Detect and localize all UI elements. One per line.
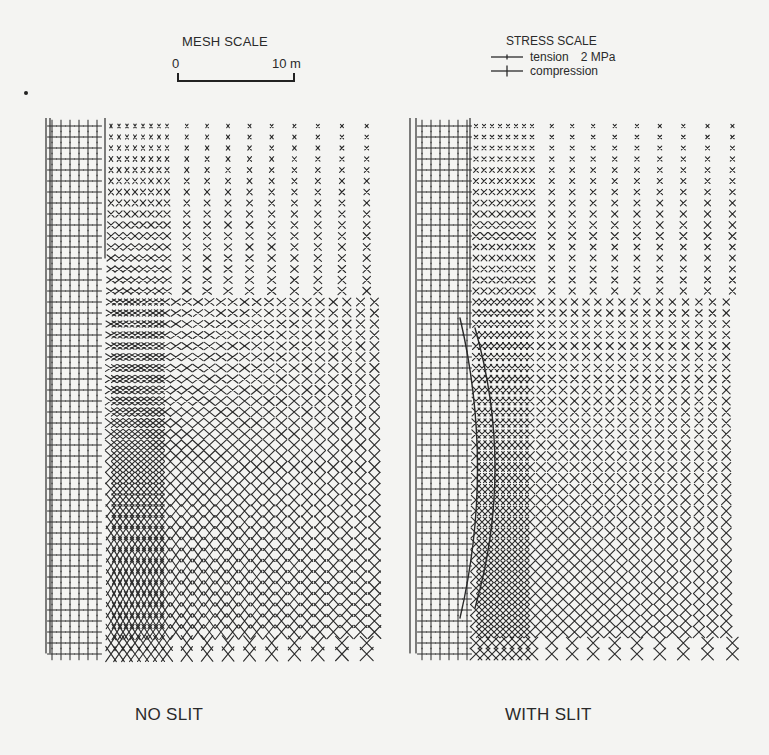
compression-label: compression: [530, 64, 598, 78]
stress-scale-title: STRESS SCALE: [506, 34, 597, 48]
caption-no-slit: NO SLIT: [135, 705, 203, 725]
stress-magnitude-label: 2 MPa: [581, 50, 616, 64]
tension-symbol-icon: [490, 52, 524, 62]
stray-dot-mark: [24, 91, 28, 95]
mesh-scale-start-label: 0: [172, 56, 179, 71]
mesh-scale-bar: [177, 80, 295, 82]
stress-field-panel-no-slit: [30, 118, 385, 673]
compression-symbol-icon: [490, 65, 524, 77]
tension-label: tension: [530, 50, 569, 64]
stress-scale-legend: STRESS SCALE tension 2 MPa compression: [490, 34, 670, 84]
mesh-scale-title: MESH SCALE: [182, 34, 268, 49]
mesh-scale-tick-right: [293, 73, 295, 82]
caption-with-slit: WITH SLIT: [505, 705, 592, 725]
mesh-scale-legend: MESH SCALE 0 10 m: [168, 34, 318, 94]
tension-legend-row: tension 2 MPa: [490, 50, 615, 64]
stress-field-panel-with-slit: [400, 118, 745, 673]
compression-legend-row: compression: [490, 64, 598, 78]
mesh-scale-end-label: 10 m: [272, 56, 301, 71]
